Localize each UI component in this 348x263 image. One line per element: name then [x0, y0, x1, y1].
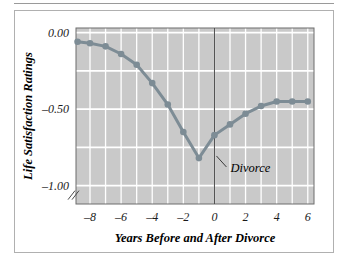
x-tick-label: 2	[243, 210, 249, 224]
axis-break-slash	[68, 191, 75, 200]
data-point	[242, 110, 249, 117]
data-point	[258, 103, 265, 110]
data-point	[74, 38, 81, 45]
data-point	[211, 132, 218, 139]
x-tick-label: –6	[114, 210, 127, 224]
x-axis-title: Years Before and After Divorce	[115, 231, 276, 245]
y-axis-title: Life Satisfaction Ratings	[21, 52, 35, 181]
data-point	[196, 155, 203, 162]
data-point	[118, 51, 125, 58]
plot-background	[76, 28, 314, 204]
x-tick-label: –8	[83, 210, 96, 224]
x-tick-label: –4	[145, 210, 158, 224]
annotation-label-divorce: Divorce	[229, 161, 270, 175]
figure-container: –8–6–4–202460.00–0.50–1.00Years Before a…	[0, 0, 348, 263]
data-point	[289, 98, 296, 105]
y-tick-label: 0.00	[48, 26, 69, 40]
x-axis-tick-labels: –8–6–4–20246	[83, 210, 311, 224]
data-point	[273, 98, 280, 105]
x-tick-label: 0	[211, 210, 217, 224]
x-tick-label: 6	[305, 210, 311, 224]
data-point	[304, 98, 311, 105]
y-tick-label: –0.50	[41, 102, 69, 116]
line-chart: –8–6–4–202460.00–0.50–1.00Years Before a…	[0, 0, 348, 263]
data-point	[87, 40, 94, 47]
y-axis-tick-labels: 0.00–0.50–1.00	[41, 26, 69, 193]
data-point	[180, 129, 187, 136]
data-point	[133, 61, 140, 68]
data-point	[164, 101, 171, 108]
data-point	[149, 80, 156, 87]
data-point	[227, 121, 234, 128]
x-tick-label: 4	[274, 210, 280, 224]
y-tick-label: –1.00	[41, 179, 69, 193]
x-tick-label: –2	[176, 210, 189, 224]
data-point	[102, 43, 109, 50]
